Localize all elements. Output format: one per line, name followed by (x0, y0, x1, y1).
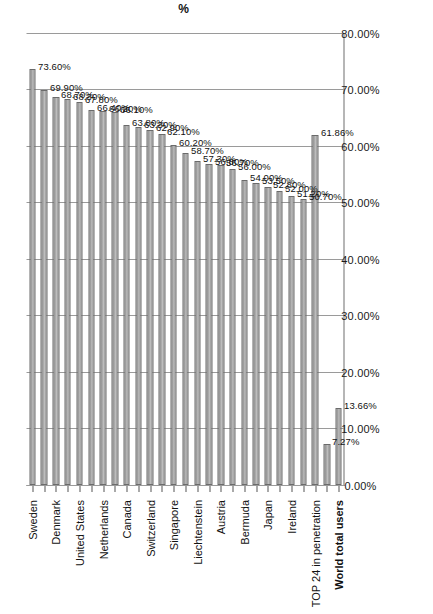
category-tick (315, 486, 316, 492)
bar-rect (229, 169, 235, 485)
category-tick (161, 486, 162, 492)
bar-value-label: 73.60% (37, 61, 70, 72)
category-tick (232, 486, 233, 492)
bar-rect (241, 180, 247, 485)
bar-rect (76, 102, 82, 485)
category-tick (126, 486, 127, 492)
value-axis-tick-label: 20.00% (341, 367, 380, 379)
value-axis-tick-label: 70.00% (341, 85, 380, 97)
category-tick (91, 486, 92, 492)
category-tick (44, 486, 45, 492)
bar-chart: 13.66%7.27%61.86%50.70%51.20%52.00%52.80… (0, 0, 433, 614)
bar-rect (194, 161, 200, 485)
value-axis-labels: 0.00%10.00%20.00%30.00%40.00%50.00%60.00… (344, 34, 404, 486)
category-tick (338, 486, 339, 492)
bar-series: 13.66%7.27%61.86%50.70%51.20%52.00%52.80… (26, 34, 344, 486)
bar: 54.00% (241, 180, 247, 485)
category-tick (244, 486, 245, 492)
category-axis-label: Switzerland (144, 500, 156, 557)
bar: 69.90% (40, 90, 46, 485)
category-tick (291, 486, 292, 492)
bar-value-label: 54.00% (249, 171, 282, 182)
bar: 52.00% (276, 191, 282, 485)
bar-rect (123, 125, 129, 485)
value-axis-tick-label: 60.00% (341, 141, 380, 153)
bar-rect (40, 90, 46, 485)
bar: 62.10% (158, 134, 164, 485)
category-tick (220, 486, 221, 492)
category-tick (185, 486, 186, 492)
category-tick (303, 486, 304, 492)
category-tick (279, 486, 280, 492)
bar-rect (135, 127, 141, 485)
bar-rect (264, 187, 270, 485)
bar: 66.20% (99, 111, 105, 485)
category-tick (67, 486, 68, 492)
category-axis-labels: World total usersTOP 24 in penetrationIr… (26, 496, 344, 614)
category-axis-label: Netherlands (97, 500, 109, 559)
bar-rect (205, 164, 211, 485)
category-axis-label: Sweden (26, 500, 38, 540)
value-axis-tick-label: 50.00% (341, 198, 380, 210)
value-axis-tick-label: 30.00% (341, 311, 380, 323)
bar: 63.80% (123, 125, 129, 485)
bar-rect (252, 183, 258, 485)
bar: 66.10% (111, 112, 117, 485)
category-axis-label: United States (73, 500, 85, 566)
category-tick (173, 486, 174, 492)
bar-rect (158, 134, 164, 485)
bar: 66.40% (88, 110, 94, 485)
bar: 56.80% (205, 164, 211, 485)
bar-rect (300, 199, 306, 485)
bar: 63.30% (135, 127, 141, 485)
bar: 68.30% (64, 99, 70, 485)
category-axis-label: World total users (332, 500, 344, 590)
bar-rect (276, 191, 282, 485)
bar-value-label: 69.90% (49, 82, 82, 93)
category-tick-marks (26, 486, 344, 494)
category-axis-label: Bermuda (238, 500, 250, 545)
category-tick (326, 486, 327, 492)
bar: 67.80% (76, 102, 82, 485)
category-tick (256, 486, 257, 492)
category-axis-label: Ireland (285, 500, 297, 534)
bar-rect (52, 97, 58, 485)
category-tick (79, 486, 80, 492)
bar: 60.20% (170, 145, 176, 485)
value-axis-tick-label: 10.00% (341, 424, 380, 436)
category-tick (32, 486, 33, 492)
rotated-figure-stage: 13.66%7.27%61.86%50.70%51.20%52.00%52.80… (0, 0, 433, 614)
bar: 7.27% (323, 444, 329, 485)
bar: 57.30% (194, 161, 200, 485)
bar: 73.60% (29, 69, 35, 485)
bar-rect (111, 112, 117, 485)
bar: 51.20% (288, 196, 294, 485)
category-tick (267, 486, 268, 492)
category-tick (55, 486, 56, 492)
bar: 53.50% (252, 183, 258, 485)
category-tick (209, 486, 210, 492)
bar-rect (217, 165, 223, 485)
category-axis-label: Liechtenstein (191, 500, 203, 565)
bar: 56.70% (217, 165, 223, 485)
bar: 56.00% (229, 169, 235, 485)
category-axis-label: TOP 24 in penetration (309, 500, 321, 607)
bar-rect (182, 153, 188, 485)
bar: 68.70% (52, 97, 58, 485)
bar: 50.70% (300, 199, 306, 485)
bar: 62.90% (146, 130, 152, 485)
category-axis-label: Canada (120, 500, 132, 539)
value-axis-tick-label: 0.00% (344, 480, 376, 492)
bar-rect (88, 110, 94, 485)
category-tick (138, 486, 139, 492)
bar-rect (323, 444, 329, 485)
bar: 58.70% (182, 153, 188, 485)
bar-rect (64, 99, 70, 485)
category-tick (150, 486, 151, 492)
bar-rect (170, 145, 176, 485)
value-axis-tick-label: 40.00% (341, 254, 380, 266)
plot-area: 13.66%7.27%61.86%50.70%51.20%52.00%52.80… (26, 34, 344, 486)
bar-rect (29, 69, 35, 485)
bar: 52.80% (264, 187, 270, 485)
bar-rect (146, 130, 152, 485)
